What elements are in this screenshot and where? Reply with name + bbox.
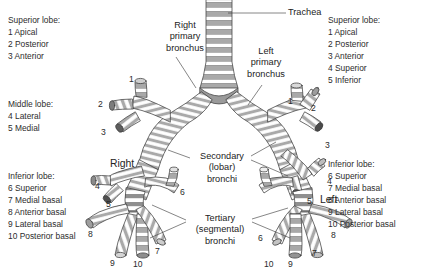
leader-tertiary-c [252, 208, 288, 219]
legend-item: 3 Anterior [328, 50, 380, 62]
legend-item: 9 Lateral basal [328, 206, 396, 218]
segment-number-right-9: 9 [110, 258, 115, 268]
segment-number-left-8: 8 [331, 230, 336, 240]
label-line: bronchi [188, 236, 252, 247]
leader-tertiary-a [152, 205, 186, 220]
segment-number-right-8: 8 [88, 229, 93, 239]
segment-number-right-5: 5 [106, 199, 111, 209]
left-segment-10-posterior-basal [289, 214, 302, 256]
legend-item: 2 Posterior [328, 38, 380, 50]
label-right-primary-bronchus: Right primary bronchus [155, 20, 215, 54]
label-secondary-bronchi: Secondary (lobar) bronchi [191, 151, 253, 185]
segment-number-left-10: 10 [264, 259, 274, 269]
legend-header: Inferior lobe: [8, 170, 76, 182]
legend-header: Inferior lobe: [328, 158, 396, 170]
legend-left-superior-lobe: Superior lobe: 1 Apical 2 Posterior 3 An… [328, 14, 380, 87]
label-line: Left [237, 46, 295, 57]
segment-number-left-3: 3 [325, 140, 330, 150]
label-line: primary [155, 31, 215, 42]
figure-canvas: Superior lobe: 1 Apical 2 Posterior 3 An… [0, 0, 442, 273]
legend-item: 8 Anterior basal [328, 194, 396, 206]
label-line: bronchus [237, 69, 295, 80]
legend-item: 6 Superior [328, 170, 396, 182]
legend-item: 2 Posterior [8, 38, 60, 50]
legend-item: 3 Anterior [8, 50, 60, 62]
legend-header: Middle lobe: [8, 98, 53, 110]
legend-header: Superior lobe: [328, 14, 380, 26]
segment-number-left-2: 2 [311, 103, 316, 113]
label-trachea: Trachea [288, 7, 321, 18]
segment-number-left-5: 5 [307, 196, 312, 206]
legend-item: 8 Anterior basal [8, 206, 76, 218]
legend-header: Superior lobe: [8, 14, 60, 26]
label-line: Secondary [191, 151, 253, 162]
legend-item: 5 Medial [8, 122, 53, 134]
legend-item: 1 Apical [8, 26, 60, 38]
leader-secondary-c [168, 150, 190, 158]
legend-right-middle-lobe: Middle lobe: 4 Lateral 5 Medial [8, 98, 53, 134]
right-segment-9-lateral-basal [115, 214, 138, 256]
segment-number-right-7: 7 [155, 246, 160, 256]
label-side-right: Right [110, 158, 134, 169]
legend-item: 7 Medial basal [8, 194, 76, 206]
legend-item: 10 Posterior basal [8, 230, 76, 242]
label-line: Tertiary [188, 213, 252, 224]
segment-number-left-7: 7 [312, 248, 317, 258]
segment-number-right-2: 2 [98, 99, 103, 109]
label-line: (segmental) [188, 224, 252, 235]
label-side-left: Left [320, 194, 337, 205]
label-line: primary [237, 57, 295, 68]
segment-number-left-1: 1 [288, 96, 293, 106]
segment-number-left-4: 4 [327, 176, 332, 186]
right-segment-2-posterior [112, 99, 133, 110]
legend-right-inferior-lobe: Inferior lobe: 6 Superior 7 Medial basal… [8, 170, 76, 243]
label-line: bronchi [191, 174, 253, 185]
legend-item: 1 Apical [328, 26, 380, 38]
segment-number-right-4: 4 [95, 181, 100, 191]
label-left-primary-bronchus: Left primary bronchus [237, 46, 295, 80]
label-line: bronchus [155, 43, 215, 54]
legend-item: 7 Medial basal [328, 182, 396, 194]
legend-item: 4 Lateral [8, 110, 53, 122]
legend-item: 6 Superior [8, 182, 76, 194]
label-tertiary-bronchi: Tertiary (segmental) bronchi [188, 213, 252, 247]
segment-number-right-3: 3 [101, 127, 106, 137]
leader-left-primary [248, 85, 262, 105]
label-line: (lobar) [191, 162, 253, 173]
segment-number-left-6: 6 [258, 233, 263, 243]
legend-right-superior-lobe: Superior lobe: 1 Apical 2 Posterior 3 An… [8, 14, 60, 62]
segment-number-right-10: 10 [133, 259, 143, 269]
segment-number-right-6: 6 [180, 187, 185, 197]
segment-number-left-9: 9 [288, 259, 293, 269]
legend-item: 4 Superior [328, 62, 380, 74]
legend-item: 10 Posterior basal [328, 218, 396, 230]
legend-item: 5 Inferior [328, 74, 380, 86]
leader-right-primary [176, 57, 196, 88]
label-line: Right [155, 20, 215, 31]
legend-item: 9 Lateral basal [8, 218, 76, 230]
segment-number-right-1: 1 [129, 74, 134, 84]
legend-left-inferior-lobe: Inferior lobe: 6 Superior 7 Medial basal… [328, 158, 396, 231]
